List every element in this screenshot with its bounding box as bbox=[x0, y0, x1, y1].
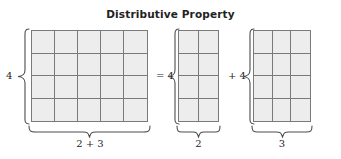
grid-cell bbox=[78, 31, 101, 54]
grid-cell bbox=[291, 99, 310, 122]
grid-cell bbox=[291, 54, 310, 77]
grid-cell bbox=[32, 99, 55, 122]
middle-width-label: 2 bbox=[178, 138, 219, 149]
grid-cell bbox=[273, 76, 292, 99]
grid-cell bbox=[273, 99, 292, 122]
left-height-label: 4 bbox=[6, 70, 12, 81]
grid-cell bbox=[273, 31, 292, 54]
grid-cell bbox=[55, 76, 78, 99]
grid-cell bbox=[124, 99, 147, 122]
grid-cell bbox=[78, 54, 101, 77]
grid-cell bbox=[179, 31, 199, 54]
grid-first-product bbox=[178, 30, 219, 122]
grid-cell bbox=[32, 31, 55, 54]
grid-cell bbox=[199, 99, 219, 122]
grid-cell bbox=[179, 99, 199, 122]
grid-cell bbox=[78, 99, 101, 122]
distributive-property-figure: Distributive Property 4 2 + 3 = 4 bbox=[0, 0, 341, 159]
grid-combined bbox=[31, 30, 148, 122]
grid-cell bbox=[101, 99, 124, 122]
grid-cell bbox=[254, 54, 273, 77]
grid-cell bbox=[124, 54, 147, 77]
grid-cell bbox=[101, 76, 124, 99]
grid-cell bbox=[32, 54, 55, 77]
grid-cell bbox=[32, 76, 55, 99]
grid-cell bbox=[254, 99, 273, 122]
grid-cell bbox=[124, 31, 147, 54]
grid-cell bbox=[254, 76, 273, 99]
grid-cell bbox=[273, 54, 292, 77]
grid-cell bbox=[291, 76, 310, 99]
grid-cell bbox=[124, 76, 147, 99]
left-width-label: 2 + 3 bbox=[0, 138, 180, 149]
right-width-label: 3 bbox=[253, 138, 311, 149]
grid-cell bbox=[179, 54, 199, 77]
grid-cell bbox=[199, 54, 219, 77]
grid-cell bbox=[101, 31, 124, 54]
middle-width-brace-icon bbox=[176, 125, 222, 138]
grid-second-product bbox=[253, 30, 311, 122]
left-vertical-brace-icon bbox=[16, 28, 30, 125]
grid-cell bbox=[179, 76, 199, 99]
grid-cell bbox=[101, 54, 124, 77]
grid-cell bbox=[291, 31, 310, 54]
left-width-brace-icon bbox=[28, 125, 151, 138]
grid-cell bbox=[55, 31, 78, 54]
grid-cell bbox=[199, 31, 219, 54]
grid-cell bbox=[78, 76, 101, 99]
grid-cell bbox=[55, 99, 78, 122]
page-title: Distributive Property bbox=[0, 8, 341, 20]
grid-cell bbox=[254, 31, 273, 54]
grid-cell bbox=[199, 76, 219, 99]
grid-cell bbox=[55, 54, 78, 77]
right-width-brace-icon bbox=[251, 125, 314, 138]
